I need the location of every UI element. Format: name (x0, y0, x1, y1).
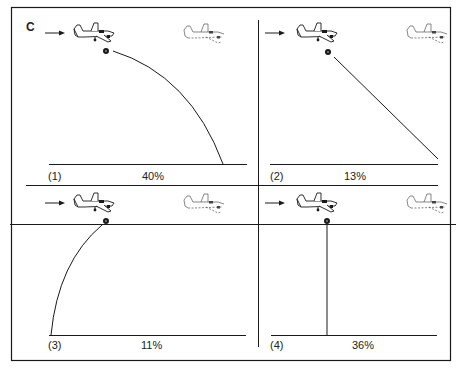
twin-engine-aircraft-icon (74, 193, 114, 212)
panel-4-number: (4) (270, 339, 283, 351)
panel-3 (45, 193, 246, 336)
direction-of-flight-arrow-icon (45, 31, 65, 36)
trajectory-straight-diagonal (334, 57, 438, 159)
panel-4-percent: 36% (352, 339, 374, 351)
aircraft-ghost-outline-icon (184, 24, 224, 43)
panel-3-percent: 11% (141, 339, 162, 351)
twin-engine-aircraft-icon (297, 193, 337, 212)
direction-of-flight-arrow-icon (265, 201, 285, 206)
trajectory-diagram (0, 0, 461, 377)
trajectory-curve-forward (113, 51, 223, 164)
panel-2-number: (2) (270, 170, 283, 182)
panel-1-percent: 40% (142, 170, 164, 182)
aircraft-ghost-outline-icon (184, 194, 224, 213)
released-object-icon (103, 218, 109, 224)
direction-of-flight-arrow-icon (265, 31, 285, 36)
released-object-icon (103, 48, 109, 54)
panel-letter: C (26, 20, 35, 34)
twin-engine-aircraft-icon (74, 23, 114, 42)
released-object-icon (324, 218, 330, 224)
released-object-icon (325, 49, 331, 55)
twin-engine-aircraft-icon (297, 23, 337, 42)
aircraft-ghost-outline-icon (407, 24, 447, 43)
panel-1 (45, 23, 247, 165)
direction-of-flight-arrow-icon (45, 201, 65, 206)
panel-2-percent: 13% (344, 170, 366, 182)
panel-3-number: (3) (48, 339, 61, 351)
panel-4 (265, 193, 447, 336)
aircraft-ghost-outline-icon (407, 194, 447, 213)
trajectory-curve-backward (51, 225, 102, 335)
figure-border (12, 8, 451, 361)
panel-1-number: (1) (48, 170, 61, 182)
panel-2 (265, 23, 447, 165)
